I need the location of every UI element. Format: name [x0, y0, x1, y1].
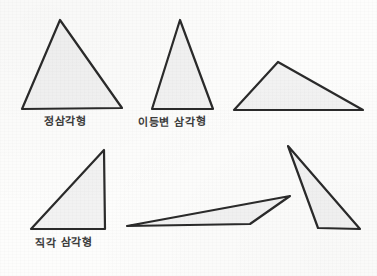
narrow-tall-triangle [288, 146, 360, 229]
label-right-triangle: 직각 삼각형 [35, 237, 93, 249]
label-isosceles-triangle: 이등변 삼각형 [138, 116, 206, 128]
right-triangle [31, 150, 105, 229]
equilateral-triangle [22, 20, 122, 109]
obtuse-scalene-triangle [234, 62, 363, 110]
label-equilateral-triangle: 정삼각형 [44, 115, 87, 127]
triangle-types-figure-page: 정삼각형 이등변 삼각형 직각 삼각형 [0, 0, 377, 276]
sliver-triangle [127, 196, 290, 226]
triangle-diagram-canvas [0, 0, 377, 276]
isosceles-triangle [152, 20, 213, 109]
